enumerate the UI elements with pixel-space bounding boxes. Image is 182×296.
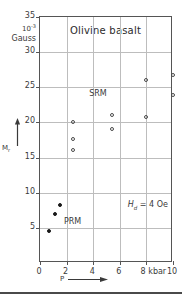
data-point-srm [171, 93, 175, 97]
x-axis-tick [173, 261, 174, 265]
y-axis-unit-exponent-base: 10 [22, 25, 31, 33]
gridline-vertical [146, 17, 147, 261]
y-axis-unit-label: Gauss [0, 34, 36, 43]
field-symbol: Hd [128, 200, 138, 209]
x-axis-tick [146, 261, 147, 265]
y-axis-tick-label: 35 [1, 12, 35, 20]
gridline-horizontal [40, 52, 171, 53]
y-axis-unit-exponent: 10-3 [0, 22, 36, 34]
chart-figure: 10-3 Gauss Mr P Olivine basalt SRMPRMHd … [0, 0, 182, 296]
annotation-prm: PRM [64, 218, 81, 226]
gridline-horizontal [40, 87, 171, 88]
plot-area: Olivine basalt SRMPRMHd = 4 Oe [39, 16, 172, 262]
y-axis-tick-label: 10 [1, 188, 35, 196]
annotation-srm: SRM [89, 90, 107, 98]
x-axis-tick [120, 261, 121, 265]
gridline-horizontal [40, 122, 171, 123]
x-axis-arrow-icon [68, 276, 108, 283]
y-axis-tick [36, 17, 40, 18]
y-axis-tick-label: 25 [1, 82, 35, 90]
bottom-rule [0, 292, 182, 294]
y-axis-tick-label: 20 [1, 117, 35, 125]
data-point-prm [47, 229, 51, 233]
x-axis-tick [93, 261, 94, 265]
gridline-horizontal [40, 193, 171, 194]
y-axis-tick [36, 193, 40, 194]
annotation-field: Hd = 4 Oe [128, 201, 168, 212]
data-point-srm [110, 127, 114, 131]
x-axis-tick-label: 6 [102, 268, 136, 276]
chart-title: Olivine basalt [40, 25, 171, 36]
y-axis-unit-exponent-power: -3 [31, 23, 36, 29]
data-point-srm [71, 148, 75, 152]
field-value: = 4 Oe [140, 200, 168, 209]
data-point-srm [144, 115, 148, 119]
x-axis-tick-label: 10 [155, 268, 182, 276]
gridline-horizontal [40, 228, 171, 229]
x-axis-tick [40, 261, 41, 265]
data-point-srm [144, 78, 148, 82]
gridline-vertical [93, 17, 94, 261]
x-axis-tick [67, 261, 68, 265]
y-axis-tick [36, 52, 40, 53]
y-axis-tick [36, 87, 40, 88]
data-point-srm [71, 137, 75, 141]
x-axis-title: P [60, 276, 64, 283]
y-axis-unit-block: 10-3 Gauss [0, 22, 36, 43]
y-axis-tick [36, 158, 40, 159]
gridline-horizontal [40, 158, 171, 159]
y-axis-tick [36, 228, 40, 229]
gridline-vertical [120, 17, 121, 261]
data-point-srm [71, 120, 75, 124]
data-point-prm [53, 212, 57, 216]
x-axis-title-main: P [60, 275, 64, 283]
data-point-srm [110, 113, 114, 117]
y-axis-tick-label: 15 [1, 153, 35, 161]
y-axis-tick [36, 122, 40, 123]
data-point-srm [171, 73, 175, 77]
data-point-prm [58, 203, 62, 207]
y-axis-tick-label: 30 [1, 47, 35, 55]
y-axis-tick-label: 5 [1, 223, 35, 231]
